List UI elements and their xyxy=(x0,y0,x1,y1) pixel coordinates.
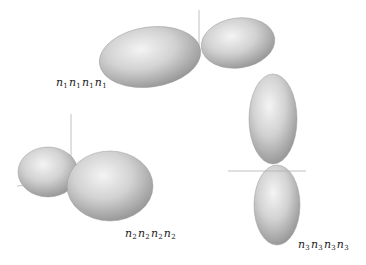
panel-label-3: n3n3n3n3 xyxy=(298,238,350,252)
lobes-layer xyxy=(17,13,306,245)
lobe-group-2 xyxy=(18,147,153,221)
lobe-group-3 xyxy=(249,74,300,245)
lobe-group-1 xyxy=(95,13,278,94)
lobe-3-1 xyxy=(249,74,297,164)
panel-label-1: n1n1n1n1 xyxy=(56,76,108,90)
lobe-3-2 xyxy=(254,165,300,245)
lobe-1-2 xyxy=(198,13,278,73)
figure-canvas xyxy=(0,0,366,265)
lobe-1-1 xyxy=(95,20,204,94)
lobe-2-2 xyxy=(67,151,153,221)
panel-label-2: n2n2n2n2 xyxy=(125,227,177,241)
